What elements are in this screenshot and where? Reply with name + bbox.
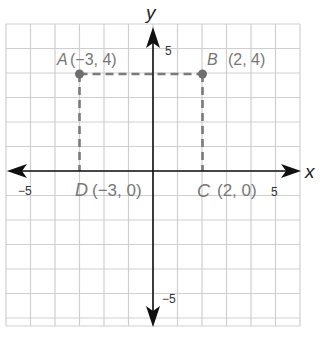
x-axis-label: x	[304, 161, 316, 182]
y-tick-5: 5	[165, 44, 172, 58]
label-d: D (−3, 0)	[75, 180, 142, 200]
svg-text:(−3, 0): (−3, 0)	[92, 181, 142, 200]
x-tick-neg5: −5	[18, 184, 32, 198]
y-axis-label: y	[144, 2, 157, 23]
y-tick-neg5: −5	[162, 292, 176, 306]
svg-text:D: D	[75, 180, 88, 200]
svg-text:C: C	[197, 181, 211, 201]
x-axis	[7, 164, 301, 178]
label-b: B (2, 4)	[207, 51, 265, 68]
coordinate-plane: y x −5 5 5 −5 A (−3, 4) B (2, 4) D (−3, …	[0, 0, 328, 339]
x-tick-5: 5	[271, 185, 278, 199]
point-a	[75, 70, 84, 79]
label-a: A (−3, 4)	[56, 51, 117, 68]
svg-text:A: A	[56, 51, 68, 68]
label-c: C (2, 0)	[197, 181, 257, 201]
svg-text:B: B	[207, 51, 218, 68]
point-b	[198, 70, 207, 79]
y-axis	[146, 27, 160, 327]
svg-text:(2, 0): (2, 0)	[217, 181, 257, 200]
svg-text:(2, 4): (2, 4)	[228, 51, 265, 68]
svg-text:(−3, 4): (−3, 4)	[70, 51, 117, 68]
